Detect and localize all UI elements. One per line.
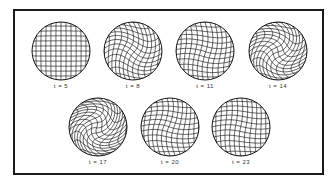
panel-label: t = 5 xyxy=(41,83,81,89)
panel-label: t = 17 xyxy=(78,159,118,165)
sphere-panel xyxy=(242,15,313,86)
sphere-panel xyxy=(170,16,240,86)
panel-label: t = 14 xyxy=(258,83,298,89)
panel-label: t = 23 xyxy=(221,159,261,165)
sphere-panel xyxy=(206,92,276,162)
panel-label: t = 8 xyxy=(113,83,153,89)
sphere-panel xyxy=(62,91,134,163)
sphere-panel xyxy=(97,15,169,87)
sphere-panel xyxy=(134,91,205,162)
panel-label: t = 11 xyxy=(185,83,225,89)
panel-label: t = 20 xyxy=(150,159,190,165)
sphere-panel xyxy=(27,17,96,86)
